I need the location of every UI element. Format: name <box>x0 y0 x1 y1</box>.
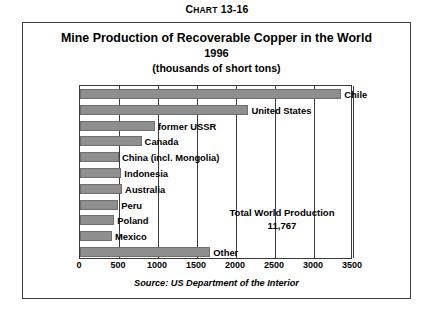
chart-title-block: Mine Production of Recoverable Copper in… <box>23 30 410 76</box>
x-tick-label: 2000 <box>225 260 245 270</box>
figure-frame: Mine Production of Recoverable Copper in… <box>22 22 411 299</box>
bar-category-label: Australia <box>122 183 165 194</box>
gridline <box>353 86 354 258</box>
chart-title-main: Mine Production of Recoverable Copper in… <box>23 30 410 46</box>
bar-row[interactable]: Poland <box>80 215 353 225</box>
bars-layer: ChileUnited Statesformer USSRCanadaChina… <box>80 86 351 258</box>
bar[interactable] <box>80 168 121 178</box>
bar-row[interactable]: Australia <box>80 184 353 194</box>
bar[interactable] <box>80 89 341 99</box>
source-note: Source: US Department of the Interior <box>23 278 410 288</box>
bar-category-label: China (incl. Mongolia) <box>119 152 219 163</box>
plot-area: ChileUnited Statesformer USSRCanadaChina… <box>79 85 352 259</box>
bar-category-label: Peru <box>118 199 142 210</box>
chart-title-units: (thousands of short tons) <box>23 61 410 76</box>
bar-category-label: Mexico <box>112 231 147 242</box>
x-tick-label: 3500 <box>342 260 362 270</box>
x-axis-tick-labels: 0500100015002000250030003500 <box>79 260 352 274</box>
bar[interactable] <box>80 184 122 194</box>
bar[interactable] <box>80 152 119 162</box>
chart-caption-word: HART <box>193 5 217 15</box>
bar-row[interactable]: China (incl. Mongolia) <box>80 152 353 162</box>
bar[interactable] <box>80 105 248 115</box>
bar-row[interactable]: former USSR <box>80 121 353 131</box>
bar-category-label: Canada <box>142 136 179 147</box>
bar-row[interactable]: Peru <box>80 200 353 210</box>
x-tick-label: 3000 <box>303 260 323 270</box>
x-tick-label: 1500 <box>186 260 206 270</box>
bar-category-label: United States <box>248 104 311 115</box>
bar-category-label: Other <box>210 247 238 258</box>
bar-row[interactable]: Chile <box>80 89 353 99</box>
bar[interactable] <box>80 215 114 225</box>
bar-row[interactable]: Indonesia <box>80 168 353 178</box>
bar-row[interactable]: United States <box>80 105 353 115</box>
x-tick-label: 500 <box>110 260 125 270</box>
x-tick-label: 2500 <box>264 260 284 270</box>
bar[interactable] <box>80 247 210 257</box>
bar-category-label: former USSR <box>155 120 216 131</box>
bar-row[interactable]: Other <box>80 247 353 257</box>
bar[interactable] <box>80 231 112 241</box>
bar-row[interactable]: Canada <box>80 136 353 146</box>
bar-category-label: Chile <box>341 88 367 99</box>
bar-row[interactable]: Mexico <box>80 231 353 241</box>
chart-title-year: 1996 <box>23 46 410 61</box>
bar[interactable] <box>80 121 155 131</box>
bar[interactable] <box>80 200 118 210</box>
x-tick-label: 1000 <box>147 260 167 270</box>
chart-caption-number: 13-16 <box>218 3 249 15</box>
bar-category-label: Poland <box>114 215 148 226</box>
bar[interactable] <box>80 136 142 146</box>
x-tick-label: 0 <box>76 260 81 270</box>
chart-caption: CHART 13-16 <box>0 3 434 15</box>
bar-category-label: Indonesia <box>121 168 168 179</box>
